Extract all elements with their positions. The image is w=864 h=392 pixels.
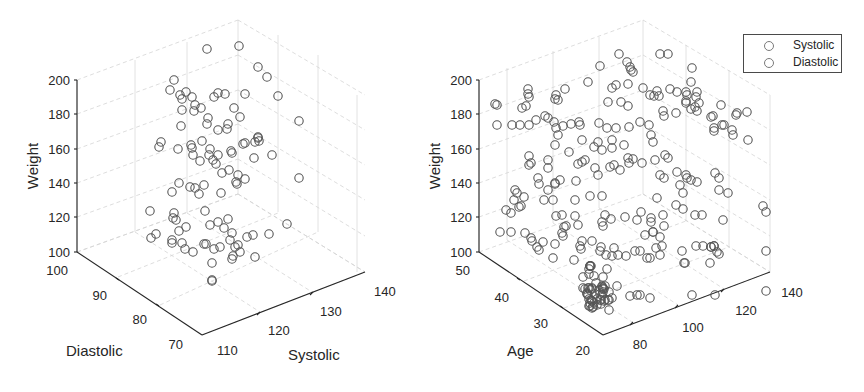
- data-point: [231, 243, 239, 251]
- data-point: [646, 294, 654, 302]
- data-point: [201, 207, 209, 215]
- data-point: [613, 282, 621, 290]
- data-point: [638, 159, 646, 167]
- left-zt-140: 140: [48, 176, 70, 191]
- data-point: [508, 121, 516, 129]
- data-point: [762, 247, 770, 255]
- data-point: [596, 62, 604, 70]
- data-point: [177, 122, 185, 130]
- circle-marker-icon: [764, 41, 774, 51]
- data-point: [166, 86, 174, 94]
- data-point: [604, 98, 612, 106]
- data-point: [624, 102, 632, 110]
- left-zt-100: 100: [48, 245, 70, 260]
- svg-text:40: 40: [495, 290, 509, 305]
- data-point: [189, 248, 197, 256]
- data-point: [155, 143, 163, 151]
- data-point: [214, 151, 222, 159]
- right-weight-label: Weight: [426, 142, 443, 189]
- data-point: [571, 212, 579, 220]
- data-point: [265, 230, 273, 238]
- data-point: [535, 180, 543, 188]
- svg-text:140: 140: [781, 285, 803, 300]
- left-zt-160: 160: [48, 142, 70, 157]
- data-point: [217, 189, 225, 197]
- data-point: [715, 186, 723, 194]
- right-weight-ticks: 200 180 160 140 120 100: [450, 73, 479, 260]
- data-point: [624, 80, 632, 88]
- data-point: [625, 123, 633, 131]
- data-point: [544, 114, 552, 122]
- data-point: [195, 190, 203, 198]
- data-point: [263, 73, 271, 81]
- svg-text:80: 80: [133, 312, 147, 327]
- svg-text:120: 120: [735, 303, 757, 318]
- data-point: [614, 251, 622, 259]
- data-point: [574, 221, 582, 229]
- data-point: [612, 124, 620, 132]
- legend-label-systolic: Systolic: [793, 38, 834, 52]
- data-point: [146, 207, 154, 215]
- data-point: [629, 68, 637, 76]
- data-point: [200, 240, 208, 248]
- data-point: [656, 251, 664, 259]
- data-point: [188, 93, 196, 101]
- data-point: [653, 194, 661, 202]
- data-point: [561, 85, 569, 93]
- data-point: [524, 90, 532, 98]
- data-point: [200, 181, 208, 189]
- data-point: [636, 247, 644, 255]
- data-point: [578, 136, 586, 144]
- data-point: [637, 208, 645, 216]
- data-point: [571, 196, 579, 204]
- svg-text:160: 160: [450, 142, 472, 157]
- svg-text:50: 50: [456, 263, 470, 278]
- left-zt-120: 120: [48, 210, 70, 225]
- data-point: [744, 136, 752, 144]
- left-plot: 200 180 160 140 120 100 Weight 100 90 80…: [24, 20, 396, 363]
- svg-text:20: 20: [576, 343, 590, 358]
- data-point: [520, 193, 528, 201]
- data-point: [558, 211, 566, 219]
- data-point: [578, 237, 586, 245]
- figure: 200 180 160 140 120 100 Weight 100 90 80…: [0, 0, 864, 392]
- left-weight-ticks: 200 180 160 140 120 100: [48, 73, 77, 260]
- data-point: [575, 118, 583, 126]
- data-point: [711, 291, 719, 299]
- data-point: [198, 137, 206, 145]
- data-point: [743, 108, 751, 116]
- data-point: [206, 145, 214, 153]
- data-point: [762, 287, 770, 295]
- data-point: [230, 104, 238, 112]
- data-point: [715, 250, 723, 258]
- data-point: [203, 120, 211, 128]
- data-point: [196, 157, 204, 165]
- data-point: [539, 238, 547, 246]
- data-point: [541, 112, 549, 120]
- data-point: [584, 78, 592, 86]
- data-point: [660, 112, 668, 120]
- data-point: [535, 246, 543, 254]
- data-point: [559, 232, 567, 240]
- data-point: [676, 181, 684, 189]
- data-point: [534, 174, 542, 182]
- left-zt-180: 180: [48, 107, 70, 122]
- svg-text:100: 100: [46, 263, 68, 278]
- data-point: [688, 64, 696, 72]
- svg-text:70: 70: [169, 337, 183, 352]
- data-point: [570, 256, 578, 264]
- data-point: [544, 156, 552, 164]
- data-point: [493, 121, 501, 129]
- svg-text:90: 90: [93, 288, 107, 303]
- data-point: [175, 227, 183, 235]
- circle-marker-icon: [764, 58, 774, 68]
- svg-text:100: 100: [450, 245, 472, 260]
- data-point: [268, 151, 276, 159]
- data-point: [581, 156, 589, 164]
- data-point: [295, 117, 303, 125]
- svg-text:120: 120: [268, 323, 290, 338]
- data-point: [718, 121, 726, 129]
- data-point: [516, 121, 524, 129]
- data-point: [202, 240, 210, 248]
- data-point: [540, 196, 548, 204]
